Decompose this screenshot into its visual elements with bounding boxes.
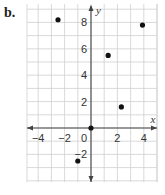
y-axis-arrow-up-icon: [89, 5, 94, 11]
data-point: [88, 125, 93, 130]
x-axis-arrow-left-icon: [27, 126, 33, 131]
y-tick-label: −2: [74, 148, 87, 160]
y-tick-label: 8: [81, 16, 87, 28]
y-axis-label: y: [95, 4, 101, 16]
data-point: [106, 53, 111, 58]
scatter-plot: −4−224−224680xy: [0, 0, 165, 195]
x-axis-arrow-right-icon: [151, 126, 157, 131]
y-tick-label: 6: [81, 43, 87, 55]
data-point: [119, 104, 124, 109]
x-axis-label: x: [150, 113, 156, 125]
y-tick-label: 2: [81, 96, 87, 108]
x-tick-label: −2: [58, 132, 71, 144]
x-tick-label: −4: [32, 132, 45, 144]
data-point: [55, 17, 60, 22]
x-tick-label: 2: [114, 132, 120, 144]
data-point: [140, 22, 145, 27]
data-point: [75, 158, 80, 163]
origin-label: 0: [81, 132, 87, 144]
y-tick-label: 4: [81, 69, 87, 81]
x-tick-label: 4: [141, 132, 147, 144]
